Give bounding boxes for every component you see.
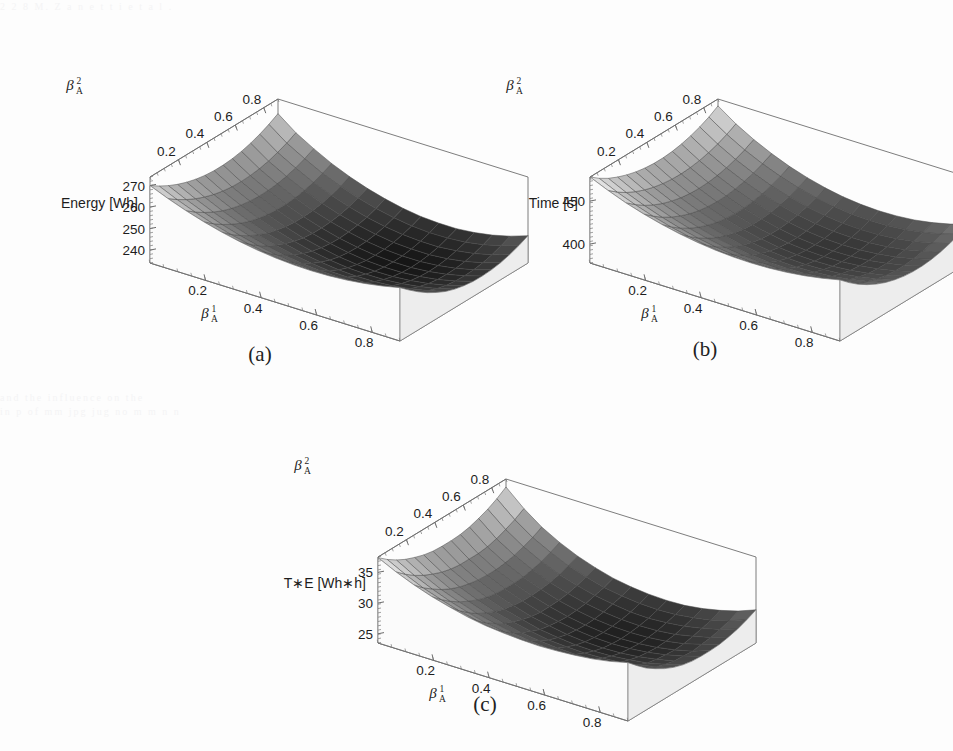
svg-text:30: 30 xyxy=(358,596,373,611)
z-axis-label-c: T∗E [Wh∗h] xyxy=(284,575,366,591)
svg-text:β: β xyxy=(505,77,514,93)
svg-text:A: A xyxy=(211,314,218,324)
svg-text:0.4: 0.4 xyxy=(185,126,204,141)
caption-a: (a) xyxy=(200,342,320,367)
svg-text:0.6: 0.6 xyxy=(214,109,233,124)
surface-svg-a: 240250260270Energy [Wh]0.20.40.60.8β1A0.… xyxy=(0,18,470,348)
svg-text:0.2: 0.2 xyxy=(597,144,616,159)
axis-label-beta: β2A xyxy=(293,456,311,476)
svg-text:0.2: 0.2 xyxy=(157,144,176,159)
axis-label-beta: β2A xyxy=(505,76,523,96)
svg-text:0.6: 0.6 xyxy=(739,318,758,333)
svg-text:0.4: 0.4 xyxy=(684,301,703,316)
svg-text:β: β xyxy=(200,305,209,321)
svg-text:A: A xyxy=(76,86,83,96)
z-axis-b: 400450Time [s] xyxy=(529,176,596,263)
svg-text:β: β xyxy=(293,457,302,473)
svg-text:0.2: 0.2 xyxy=(385,524,404,539)
surface-svg-c: 253035T∗E [Wh∗h]0.20.40.60.8β1A0.20.40.6… xyxy=(218,398,688,728)
svg-text:2: 2 xyxy=(76,76,81,86)
svg-text:270: 270 xyxy=(122,179,145,194)
z-axis-label-b: Time [s] xyxy=(529,195,578,211)
svg-text:25: 25 xyxy=(358,627,373,642)
svg-text:0.6: 0.6 xyxy=(442,489,461,504)
surface-plot-b: 400450Time [s]0.20.40.60.8β1A0.20.40.60.… xyxy=(460,18,930,348)
axis-label-beta: β2A xyxy=(65,76,83,96)
z-axis-c: 253035T∗E [Wh∗h] xyxy=(284,556,384,643)
surface-plot-c: 253035T∗E [Wh∗h]0.20.40.60.8β1A0.20.40.6… xyxy=(218,398,688,728)
svg-text:0.2: 0.2 xyxy=(188,283,207,298)
svg-text:240: 240 xyxy=(122,243,145,258)
surface-plot-a: 240250260270Energy [Wh]0.20.40.60.8β1A0.… xyxy=(0,18,470,348)
svg-text:β: β xyxy=(640,305,649,321)
z-axis-label-a: Energy [Wh] xyxy=(61,195,138,211)
caption-c: (c) xyxy=(425,692,545,717)
svg-text:A: A xyxy=(304,466,311,476)
svg-text:A: A xyxy=(516,86,523,96)
svg-text:0.4: 0.4 xyxy=(413,506,432,521)
svg-text:0.4: 0.4 xyxy=(244,301,263,316)
svg-text:0.4: 0.4 xyxy=(625,126,644,141)
z-axis-a: 240250260270Energy [Wh] xyxy=(61,176,156,263)
svg-text:1: 1 xyxy=(651,304,656,314)
svg-text:0.8: 0.8 xyxy=(795,335,814,350)
surface-svg-b: 400450Time [s]0.20.40.60.8β1A0.20.40.60.… xyxy=(460,18,930,348)
svg-text:0.8: 0.8 xyxy=(682,92,701,107)
axis-label-beta: β1A xyxy=(640,304,658,324)
svg-text:0.8: 0.8 xyxy=(355,335,374,350)
svg-text:0.8: 0.8 xyxy=(242,92,261,107)
caption-b: (b) xyxy=(645,337,765,362)
svg-text:250: 250 xyxy=(122,222,145,237)
svg-text:0.6: 0.6 xyxy=(299,318,318,333)
axis-label-beta: β1A xyxy=(200,304,218,324)
svg-text:0.8: 0.8 xyxy=(470,472,489,487)
svg-text:β: β xyxy=(65,77,74,93)
svg-text:2: 2 xyxy=(516,76,521,86)
svg-text:1: 1 xyxy=(211,304,216,314)
svg-text:2: 2 xyxy=(304,456,309,466)
svg-text:0.2: 0.2 xyxy=(416,663,435,678)
svg-text:400: 400 xyxy=(562,237,585,252)
svg-text:0.8: 0.8 xyxy=(583,715,602,730)
svg-text:A: A xyxy=(651,314,658,324)
svg-text:0.2: 0.2 xyxy=(628,283,647,298)
svg-text:0.6: 0.6 xyxy=(654,109,673,124)
figure-page: 2 2 8 M. Z a n e t t i e t a l . and the… xyxy=(0,0,953,751)
bleed-header-line-1: 2 2 8 M. Z a n e t t i e t a l . xyxy=(0,1,953,12)
